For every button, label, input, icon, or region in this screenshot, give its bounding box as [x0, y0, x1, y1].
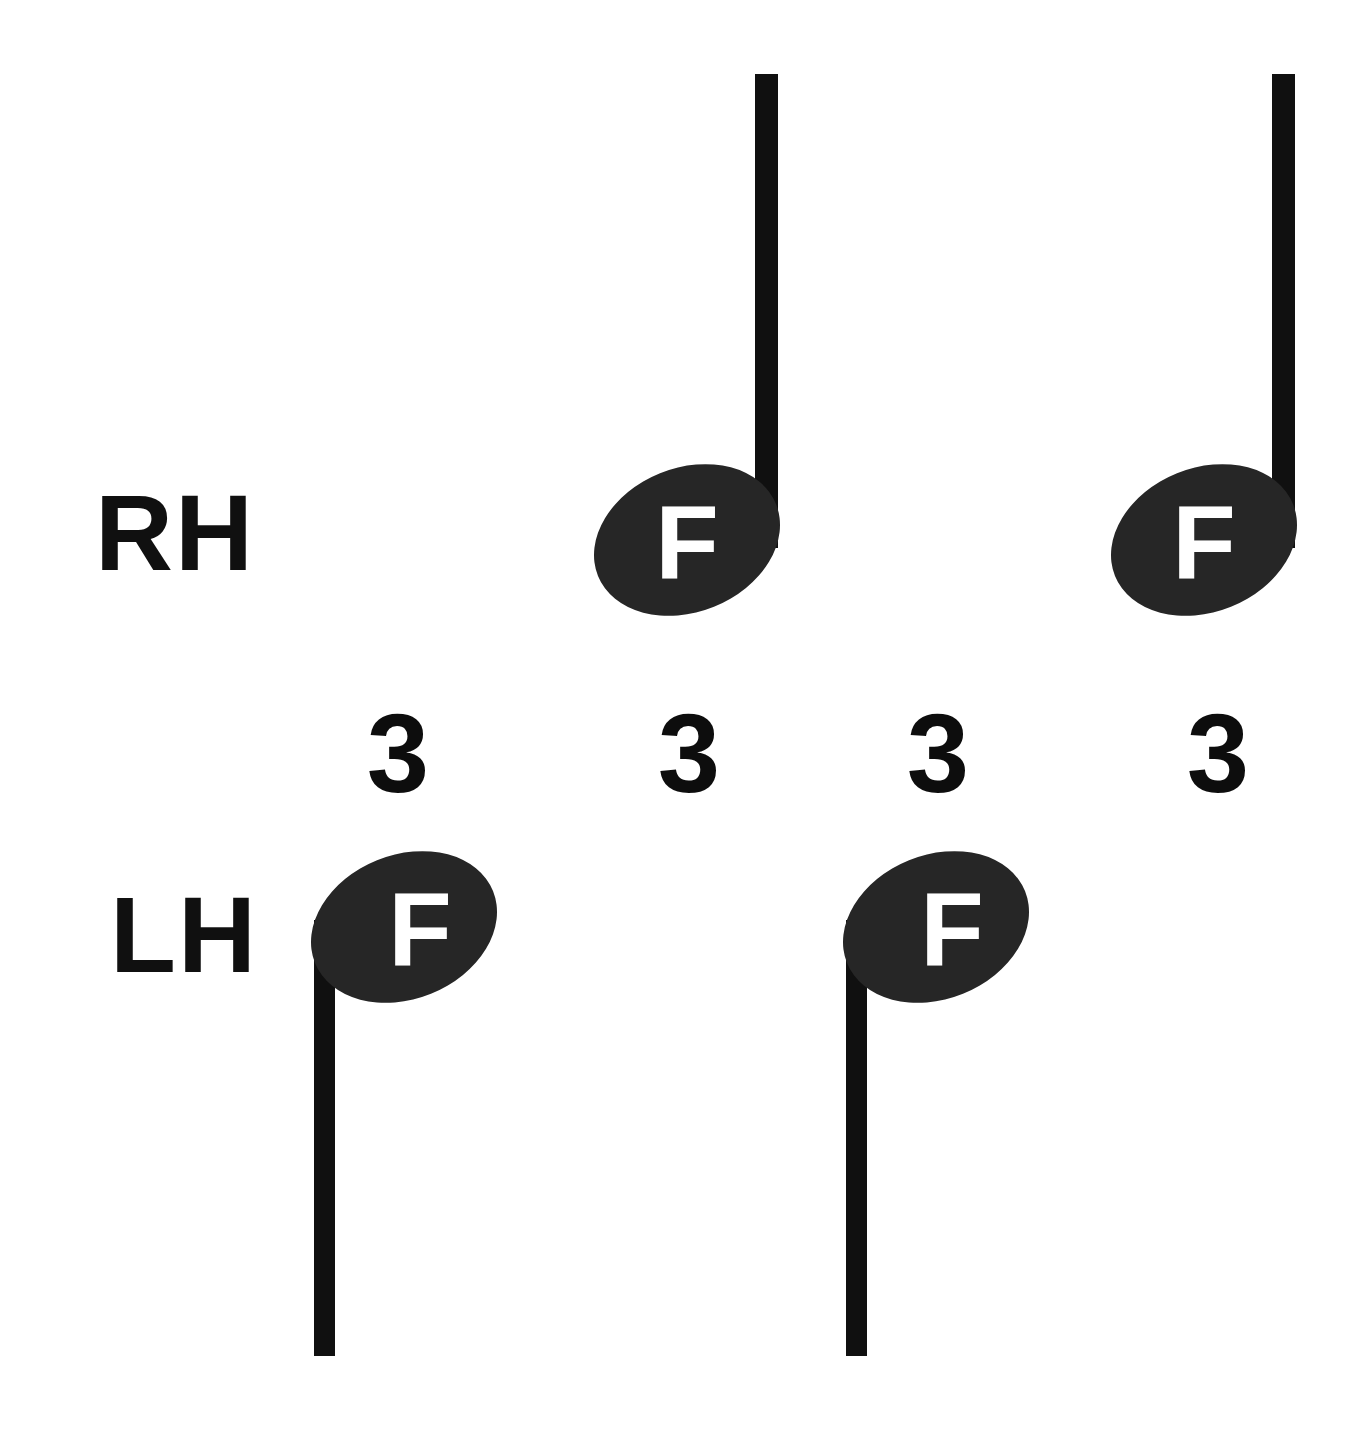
notehead-letter: F	[920, 871, 984, 987]
music-notation-figure: RH F F 3 3 3 3 LH F F	[0, 0, 1348, 1442]
figure-canvas: RH F F 3 3 3 3 LH F F	[0, 0, 1348, 1442]
note-stem	[1272, 74, 1295, 548]
notehead-letter: F	[1172, 484, 1236, 600]
tuplet-number-2: 3	[658, 691, 720, 816]
notehead-letter: F	[388, 871, 452, 987]
right-hand-label: RH	[95, 472, 255, 593]
left-hand-label: LH	[110, 874, 258, 995]
tuplet-number-3: 3	[907, 691, 969, 816]
tuplet-number-1: 3	[367, 691, 429, 816]
notehead-letter: F	[655, 484, 719, 600]
note-stem	[755, 74, 778, 548]
tuplet-number-4: 3	[1187, 691, 1249, 816]
